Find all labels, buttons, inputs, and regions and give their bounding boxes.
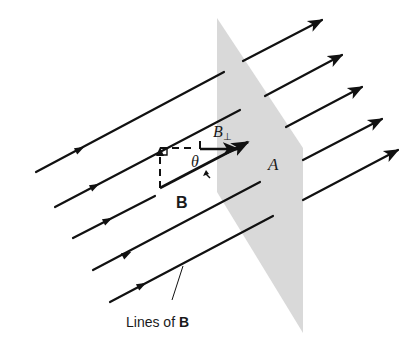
area-a-label: A bbox=[267, 155, 279, 174]
b-perp-symbol: B bbox=[213, 123, 223, 140]
field-line-segment-beyond bbox=[265, 55, 342, 96]
angle-theta-label: θ bbox=[191, 153, 199, 170]
direction-arrow-icon bbox=[89, 181, 101, 192]
direction-arrow-icon bbox=[136, 280, 148, 291]
field-line-segment-front bbox=[110, 216, 273, 302]
direction-arrow-icon bbox=[102, 215, 114, 226]
field-line-segment-beyond bbox=[303, 119, 382, 160]
lines-of-b-prefix: Lines of bbox=[126, 314, 179, 330]
field-line-segment-beyond bbox=[243, 20, 322, 61]
area-plane bbox=[217, 18, 303, 333]
magnetic-flux-diagram: θ B B⊥ A Lines of B bbox=[0, 0, 418, 351]
field-line-segment-beyond bbox=[286, 87, 362, 127]
b-perp-subscript: ⊥ bbox=[223, 131, 232, 142]
vector-b-label: B bbox=[176, 194, 188, 211]
callout-leader-line bbox=[172, 266, 183, 300]
field-line-segment-front bbox=[73, 196, 155, 238]
field-line-segment-beyond bbox=[303, 150, 398, 200]
lines-of-b-bold: B bbox=[179, 314, 189, 330]
lines-of-b-label: Lines of B bbox=[126, 314, 189, 330]
angle-pointer-icon bbox=[203, 170, 209, 176]
